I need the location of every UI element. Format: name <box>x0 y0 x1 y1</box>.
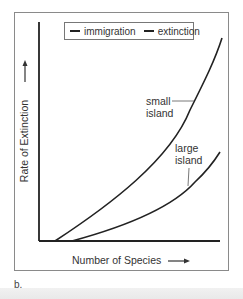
x-axis-label: Number of Species <box>72 254 161 266</box>
large-island-label: large island <box>175 142 202 166</box>
legend-item-immigration: immigration <box>70 26 136 37</box>
legend: immigration extinction <box>64 22 194 40</box>
label-line: island <box>175 154 202 166</box>
legend-label: extinction <box>158 26 200 37</box>
small-island-label: small island <box>146 95 173 119</box>
bottom-band <box>0 288 243 299</box>
large-island-leader <box>188 168 189 186</box>
line-swatch-icon <box>144 30 154 32</box>
y-axis-label: Rate of Extinction <box>18 84 32 198</box>
label-line: small <box>146 95 173 107</box>
label-line: large <box>175 142 202 154</box>
label-line: island <box>146 107 173 119</box>
right-arrow-icon <box>168 259 190 264</box>
line-swatch-icon <box>70 30 80 32</box>
small-island-curve <box>55 38 222 241</box>
legend-item-extinction: extinction <box>144 26 200 37</box>
legend-label: immigration <box>84 26 136 37</box>
up-arrow-icon <box>23 60 28 82</box>
